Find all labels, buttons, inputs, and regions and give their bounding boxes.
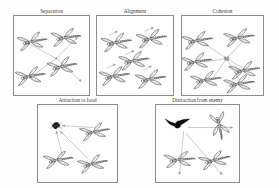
arrow-alignment xyxy=(107,64,116,68)
arrow-attraction-to-food xyxy=(62,125,93,128)
arrow-alignment xyxy=(125,51,134,55)
panel-separation: Separation xyxy=(13,8,90,96)
panel-frame-cohesion xyxy=(181,15,264,96)
panel-canvas-cohesion xyxy=(182,16,263,95)
dragonfly-icon xyxy=(17,31,49,52)
dragonfly-icon xyxy=(43,150,75,169)
panel-alignment: Alignment xyxy=(96,8,174,96)
arrow-alignment xyxy=(109,31,118,35)
arrow-cohesion xyxy=(213,58,227,77)
panel-title-alignment: Alignment xyxy=(96,8,174,15)
panel-title-attraction-to-food: Attraction to food xyxy=(37,97,118,104)
panel-frame-attraction-to-food xyxy=(37,104,118,183)
arrow-alignment xyxy=(143,66,152,70)
dragonfly-behaviour-figure: SeparationAlignmentCohesionAttraction to… xyxy=(0,0,279,188)
dragonfly-icon xyxy=(79,121,111,141)
arrow-cohesion xyxy=(227,42,243,58)
panel-canvas-separation xyxy=(14,16,89,95)
arrow-separation xyxy=(56,58,81,81)
dragonfly-icon xyxy=(136,28,168,49)
panel-canvas-alignment xyxy=(97,16,173,95)
dragonfly-icon xyxy=(182,30,214,50)
dragonfly-icon xyxy=(164,151,196,169)
panel-distraction-from-enemy: Distraction from enemy xyxy=(155,97,240,183)
panel-title-separation: Separation xyxy=(13,8,90,15)
panel-attraction-to-food: Attraction to food xyxy=(37,97,118,183)
arrow-alignment xyxy=(145,27,154,31)
arrow-cohesion xyxy=(204,58,227,63)
dragonfly-icon xyxy=(118,50,150,71)
center-node-separation xyxy=(55,58,57,60)
arrow-distraction-from-enemy xyxy=(178,131,183,174)
dragonfly-icon xyxy=(77,153,109,174)
panel-title-distraction-from-enemy: Distraction from enemy xyxy=(155,97,240,104)
panel-canvas-attraction-to-food xyxy=(38,105,117,182)
arrow-cohesion xyxy=(205,44,227,58)
panel-frame-separation xyxy=(13,15,90,96)
dragonfly-icon xyxy=(209,111,231,140)
arrow-attraction-to-food xyxy=(56,131,63,155)
panel-cohesion: Cohesion xyxy=(181,8,264,96)
dragonfly-icon xyxy=(101,32,133,53)
enemy-bird-icon xyxy=(165,119,190,129)
panel-frame-distraction-from-enemy xyxy=(155,104,240,183)
center-node-cohesion xyxy=(226,58,228,60)
panel-title-cohesion: Cohesion xyxy=(181,8,264,15)
dragonfly-icon xyxy=(135,68,167,89)
arrow-separation xyxy=(27,43,56,58)
panel-frame-alignment xyxy=(96,15,174,96)
dragonfly-icon xyxy=(198,149,232,171)
dragonfly-icon xyxy=(223,27,255,47)
arrow-attraction-to-food xyxy=(60,131,88,159)
dragonfly-icon xyxy=(223,74,255,94)
food-icon xyxy=(50,122,62,129)
dragonfly-icon xyxy=(190,70,222,90)
panel-canvas-distraction-from-enemy xyxy=(156,105,239,182)
